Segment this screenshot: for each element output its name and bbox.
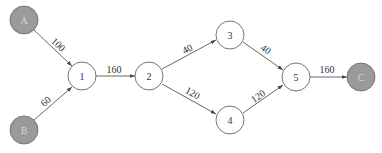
edge-label-2-4: 120: [183, 84, 201, 101]
node-1: 1: [68, 62, 96, 90]
node-label-a: A: [20, 15, 28, 26]
node-5: 5: [282, 63, 310, 91]
node-label-5: 5: [294, 72, 299, 83]
flow-network-diagram: 100 60 160 40 120 40 120 160 A B: [0, 0, 382, 153]
edge-label-b-1: 60: [38, 94, 53, 109]
node-b: B: [10, 116, 38, 144]
node-label-4: 4: [228, 115, 233, 126]
node-label-2: 2: [147, 71, 152, 82]
nodes: A B 1 2 3 4 5 C: [10, 6, 375, 144]
edge-label-2-3: 40: [180, 42, 194, 56]
node-2: 2: [135, 62, 163, 90]
node-a: A: [10, 6, 38, 34]
node-label-1: 1: [80, 71, 85, 82]
edge-label-a-1: 100: [49, 35, 67, 53]
edge-label-5-c: 160: [320, 64, 335, 75]
edge-label-1-2: 160: [107, 64, 122, 75]
node-4: 4: [216, 106, 244, 134]
edge-a-1: [34, 30, 72, 66]
node-3: 3: [216, 21, 244, 49]
node-label-c: C: [358, 72, 365, 83]
node-label-b: B: [21, 125, 28, 136]
node-c: C: [347, 63, 375, 91]
node-label-3: 3: [228, 30, 233, 41]
edge-label-4-5: 120: [249, 87, 268, 105]
